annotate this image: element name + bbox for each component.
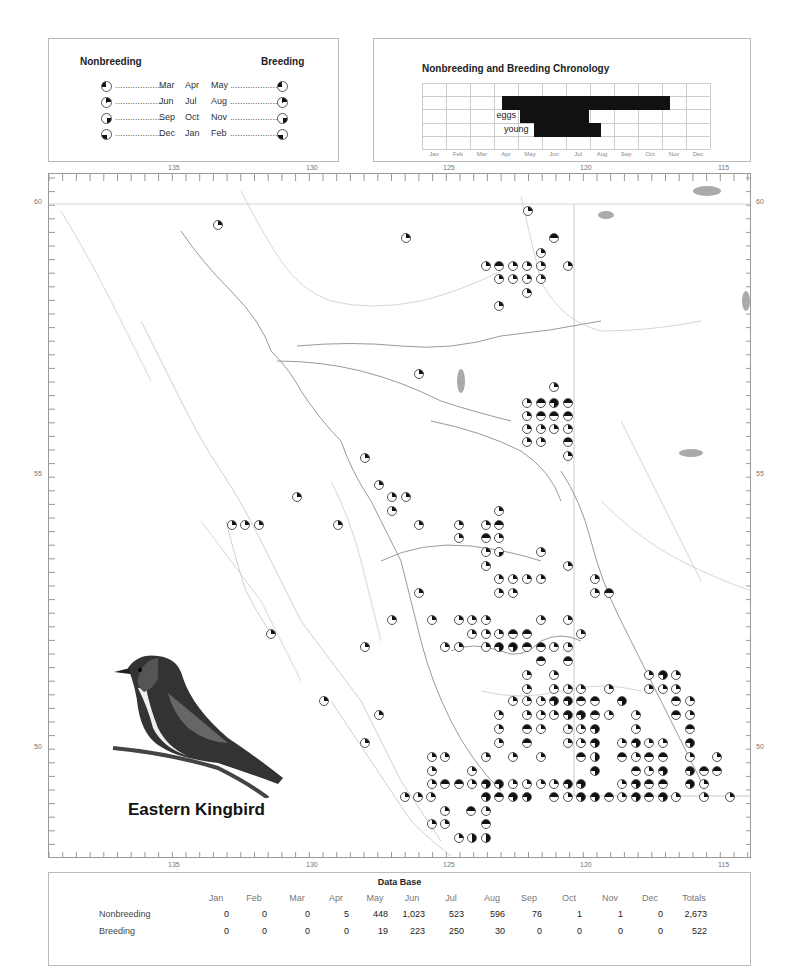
observation-symbol xyxy=(549,710,559,720)
observation-symbol xyxy=(617,792,627,802)
observation-symbol xyxy=(536,656,546,666)
grid-line xyxy=(422,149,710,150)
observation-symbol xyxy=(576,792,586,802)
observation-symbol xyxy=(685,710,695,720)
data-base-column-header: Feb xyxy=(239,893,269,903)
observation-symbol xyxy=(536,398,546,408)
observation-symbol xyxy=(481,520,491,530)
observation-symbol xyxy=(481,779,491,789)
observation-symbol xyxy=(466,806,476,816)
observation-symbol xyxy=(536,274,546,284)
legend-symbol-nonbreeding-icon xyxy=(101,97,112,108)
leader-dots: .................... xyxy=(115,80,165,90)
latitude-label: 55 xyxy=(34,470,42,477)
observation-symbol xyxy=(467,615,477,625)
observation-symbol xyxy=(508,792,518,802)
observation-symbol xyxy=(426,792,436,802)
legend-nonbreeding-title: Nonbreeding xyxy=(80,56,142,67)
observation-symbol xyxy=(631,710,641,720)
grid-line xyxy=(590,83,591,149)
data-base-column-header: May xyxy=(360,893,390,903)
observation-symbol xyxy=(549,696,559,706)
observation-symbol xyxy=(631,792,641,802)
observation-symbol xyxy=(508,274,518,284)
observation-symbol xyxy=(617,779,627,789)
legend-month-mid: Jan xyxy=(185,128,200,138)
longitude-label: 125 xyxy=(443,164,455,171)
observation-symbol xyxy=(440,642,450,652)
observation-symbol xyxy=(494,574,504,584)
data-base-cell: 0 xyxy=(633,926,663,936)
data-base-cell: 0 xyxy=(280,909,310,919)
observation-symbol xyxy=(631,738,641,748)
observation-symbol xyxy=(494,629,504,639)
observation-symbol xyxy=(481,642,491,652)
observation-symbol xyxy=(523,206,533,216)
observation-symbol xyxy=(494,588,504,598)
observation-symbol xyxy=(563,437,573,447)
observation-symbol xyxy=(467,766,477,776)
observation-symbol xyxy=(522,642,532,652)
observation-symbol xyxy=(387,506,397,516)
observation-symbol xyxy=(644,792,654,802)
data-base-column-header: Jul xyxy=(436,893,466,903)
chronology-month-label: Feb xyxy=(446,151,470,157)
observation-symbol xyxy=(440,819,450,829)
observation-symbol xyxy=(508,752,518,762)
legend-row: ....................MarAprMay...........… xyxy=(49,79,338,93)
observation-symbol xyxy=(576,710,586,720)
observation-symbol xyxy=(494,533,504,543)
observation-symbol xyxy=(671,710,681,720)
observation-symbol xyxy=(590,588,600,598)
legend-box: Nonbreeding Breeding ...................… xyxy=(48,38,339,162)
observation-symbol xyxy=(563,561,573,571)
observation-symbol xyxy=(522,261,532,271)
grid-line xyxy=(710,83,711,149)
observation-symbol xyxy=(481,533,491,543)
data-base-cell: 19 xyxy=(358,926,388,936)
observation-symbol xyxy=(644,738,654,748)
observation-symbol xyxy=(494,520,504,530)
legend-symbol-nonbreeding-icon xyxy=(101,81,112,92)
observation-symbol xyxy=(522,779,532,789)
observation-symbol xyxy=(685,724,695,734)
observation-symbol xyxy=(549,792,559,802)
observation-symbol xyxy=(590,738,600,748)
observation-symbol xyxy=(576,629,586,639)
legend-month-breeding: Aug xyxy=(211,96,227,106)
observation-symbol xyxy=(549,779,559,789)
observation-symbol xyxy=(536,411,546,421)
observation-symbol xyxy=(563,710,573,720)
observation-symbol xyxy=(563,424,573,434)
leader-dots: ..................... xyxy=(230,128,283,138)
legend-month-breeding: Nov xyxy=(211,112,227,122)
data-base-column-header: Jun xyxy=(397,893,427,903)
chronology-bar-eggs xyxy=(520,109,588,123)
chronology-bar-occurrence xyxy=(502,96,670,110)
observation-symbol xyxy=(644,766,654,776)
data-base-cell: 0 xyxy=(237,909,267,919)
leader-dots: .................... xyxy=(115,112,165,122)
observation-symbol xyxy=(712,752,722,762)
observation-symbol xyxy=(213,220,223,230)
latitude-label: 55 xyxy=(756,470,764,477)
observation-symbol xyxy=(522,629,532,639)
observation-symbol xyxy=(481,833,491,843)
data-base-cell: 0 xyxy=(199,926,229,936)
observation-symbol xyxy=(563,451,573,461)
observation-symbol xyxy=(522,792,532,802)
leader-dots: ..................... xyxy=(230,96,283,106)
observation-symbol xyxy=(454,779,464,789)
observation-symbol xyxy=(549,398,559,408)
grid-line xyxy=(686,83,687,149)
observation-symbol xyxy=(254,520,264,530)
observation-symbol xyxy=(604,588,614,598)
chronology-month-axis: JanFebMarAprMayJunJulAugSepOctNovDec xyxy=(422,151,710,161)
data-base-cell: 0 xyxy=(237,926,267,936)
observation-symbol xyxy=(481,561,491,571)
observation-symbol xyxy=(549,382,559,392)
data-base-cell: 1,023 xyxy=(395,909,425,919)
legend-month-mid: Apr xyxy=(185,80,199,90)
observation-symbol xyxy=(725,792,735,802)
observation-symbol xyxy=(658,779,668,789)
